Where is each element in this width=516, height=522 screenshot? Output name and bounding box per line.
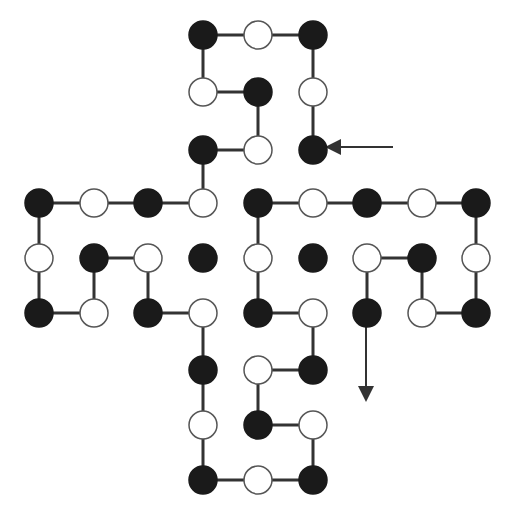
black-bead — [299, 466, 327, 494]
white-bead — [408, 299, 436, 327]
white-bead — [299, 299, 327, 327]
white-bead — [244, 244, 272, 272]
black-bead — [189, 136, 217, 164]
white-bead — [244, 466, 272, 494]
black-bead — [299, 244, 327, 272]
black-bead — [25, 189, 53, 217]
black-bead — [462, 189, 490, 217]
white-bead — [134, 244, 162, 272]
black-bead — [408, 244, 436, 272]
diagram-canvas — [0, 0, 516, 522]
white-bead — [244, 21, 272, 49]
bead-path-diagram — [0, 0, 516, 522]
black-bead — [353, 299, 381, 327]
black-bead — [134, 299, 162, 327]
white-bead — [80, 189, 108, 217]
white-bead — [189, 189, 217, 217]
black-bead — [189, 356, 217, 384]
white-bead — [408, 189, 436, 217]
white-bead — [80, 299, 108, 327]
black-bead — [244, 411, 272, 439]
white-bead — [353, 244, 381, 272]
black-bead — [299, 21, 327, 49]
black-bead — [189, 21, 217, 49]
white-bead — [244, 136, 272, 164]
black-bead — [244, 78, 272, 106]
black-bead — [25, 299, 53, 327]
black-bead — [244, 189, 272, 217]
black-bead — [80, 244, 108, 272]
black-bead — [353, 189, 381, 217]
white-bead — [244, 356, 272, 384]
black-bead — [189, 244, 217, 272]
white-bead — [299, 78, 327, 106]
white-bead — [299, 189, 327, 217]
black-bead — [134, 189, 162, 217]
black-bead — [462, 299, 490, 327]
arrows — [329, 147, 393, 398]
bead-nodes — [25, 21, 490, 494]
white-bead — [189, 299, 217, 327]
black-bead — [299, 356, 327, 384]
white-bead — [189, 78, 217, 106]
black-bead — [189, 466, 217, 494]
white-bead — [299, 411, 327, 439]
black-bead — [299, 136, 327, 164]
white-bead — [462, 244, 490, 272]
white-bead — [25, 244, 53, 272]
white-bead — [189, 411, 217, 439]
black-bead — [244, 299, 272, 327]
